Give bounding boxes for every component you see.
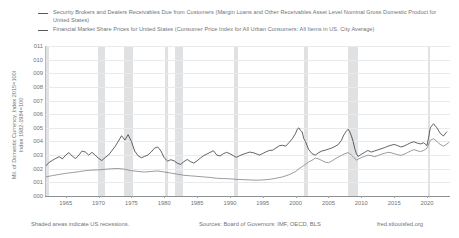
y-axis-tick-label: 005: [33, 125, 43, 131]
x-axis-tick-label: 1990: [223, 200, 236, 207]
x-axis-tick-mark: [164, 196, 165, 198]
y-axis-tick-label: 000: [33, 193, 43, 199]
x-axis-tick-mark: [99, 196, 100, 198]
footer-sources: Sources: Board of Governors: IMF, OECD, …: [199, 221, 321, 227]
plot-inner: [46, 46, 450, 196]
plot-area: 011010009008007006005004003002001000 196…: [46, 46, 450, 196]
chart-footer: Shaded areas indicate US recessions. Sou…: [0, 221, 459, 233]
y-axis-tick-label: 002: [33, 166, 43, 172]
x-axis-tick-label: 2005: [322, 200, 335, 207]
x-axis-tick-label: 2000: [289, 200, 302, 207]
legend-line-swatch-icon: [38, 13, 48, 14]
y-axis-line: [45, 46, 46, 196]
series-line-2: [46, 139, 449, 180]
y-axis-tick-label: 007: [33, 98, 43, 104]
y-axis-title: Mil. of Domestic Currency, Index 2015=10…: [11, 45, 25, 205]
x-axis-tick-mark: [131, 196, 132, 198]
x-axis-tick-mark: [230, 196, 231, 198]
y-axis-title-line-2: Index 1982-1984=100: [18, 45, 25, 205]
y-axis-tick-label: 001: [33, 179, 43, 185]
fred-chart: Security Brokers and Dealers Receivables…: [0, 0, 459, 238]
x-axis-tick-label: 1965: [59, 200, 72, 207]
y-axis-tick-label: 010: [33, 57, 43, 63]
x-axis-tick-mark: [394, 196, 395, 198]
legend-label-series-1: Security Brokers and Dealers Receivables…: [53, 8, 453, 24]
x-axis-tick-label: 2010: [355, 200, 368, 207]
y-axis-tick-label: 004: [33, 138, 43, 144]
x-axis-tick-label: 2015: [388, 200, 401, 207]
x-axis-tick-label: 1980: [158, 200, 171, 207]
legend-item-series-1[interactable]: Security Brokers and Dealers Receivables…: [38, 8, 453, 24]
footer-recessions-note: Shaded areas indicate US recessions.: [31, 221, 129, 227]
series-line-1: [46, 124, 447, 166]
series-lines: [46, 46, 450, 196]
y-axis-tick-label: 003: [33, 152, 43, 158]
x-axis-tick-label: 1975: [125, 200, 138, 207]
x-axis-tick-mark: [361, 196, 362, 198]
legend-line-swatch-icon: [38, 30, 48, 31]
y-axis-tick-label: 011: [34, 43, 43, 49]
x-axis-tick-mark: [197, 196, 198, 198]
x-axis-tick-mark: [263, 196, 264, 198]
y-axis-tick-label: 009: [33, 70, 43, 76]
y-axis-title-line-1: Mil. of Domestic Currency, Index 2015=10…: [11, 45, 18, 205]
x-axis-tick-mark: [328, 196, 329, 198]
y-axis-tick-label: 008: [33, 84, 43, 90]
legend-label-series-2: Financial Market Share Prices for United…: [53, 25, 374, 33]
x-axis-tick-mark: [427, 196, 428, 198]
x-axis-tick-label: 2020: [421, 200, 434, 207]
legend-item-series-2[interactable]: Financial Market Share Prices for United…: [38, 25, 453, 33]
x-axis-tick-mark: [296, 196, 297, 198]
chart-legend: Security Brokers and Dealers Receivables…: [38, 8, 453, 34]
footer-url[interactable]: fred.stlouisfed.org: [377, 221, 423, 227]
x-axis-line: [45, 196, 450, 197]
x-axis-tick-label: 1995: [256, 200, 269, 207]
x-axis-tick-mark: [66, 196, 67, 198]
y-axis-tick-label: 006: [33, 111, 43, 117]
x-axis-tick-label: 1985: [191, 200, 204, 207]
x-axis-tick-label: 1970: [92, 200, 105, 207]
